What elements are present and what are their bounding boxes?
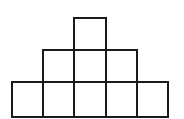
grid-square (11, 81, 44, 118)
grid-square (42, 49, 75, 83)
grid-square (105, 49, 138, 83)
grid-square (136, 81, 169, 118)
grid-square (73, 17, 107, 51)
grid-square (73, 49, 107, 83)
grid-square (73, 81, 107, 118)
grid-square (42, 81, 75, 118)
grid-square (105, 81, 138, 118)
